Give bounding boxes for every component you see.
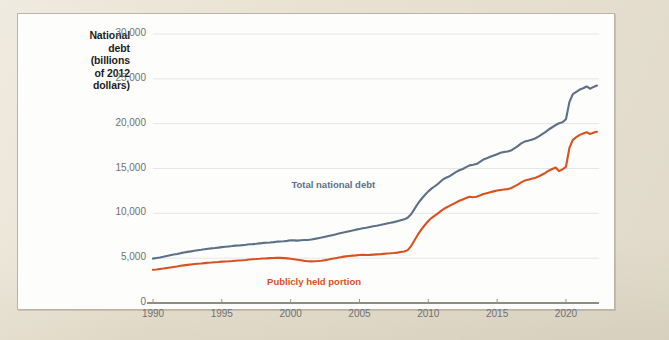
y-tick-label-5000: 5,000 [78, 251, 146, 262]
chart-card: National debt (billions of 2012 dollars)… [17, 13, 615, 310]
y-tick-label-15000: 15,000 [78, 162, 146, 173]
gridlines [153, 34, 599, 258]
y-tick-label-25000: 25,000 [78, 72, 146, 83]
series-label-publicly-held-portion: Publicly held portion [267, 276, 361, 287]
y-axis-title-line-3: (billions [58, 54, 130, 67]
plot-area: National debt (billions of 2012 dollars)… [18, 14, 614, 309]
x-tick-label-2005: 2005 [329, 308, 389, 319]
y-tick-label-10000: 10,000 [78, 206, 146, 217]
x-tick-label-2010: 2010 [398, 308, 458, 319]
y-tick-label-20000: 20,000 [78, 117, 146, 128]
y-tick-label-30000: 30,000 [78, 27, 146, 38]
x-tick-label-2015: 2015 [467, 308, 527, 319]
series-line-1 [153, 132, 597, 270]
series-line-0 [153, 86, 597, 259]
x-tick-label-2020: 2020 [536, 308, 596, 319]
y-axis-title-line-2: debt [58, 42, 130, 55]
figure-root: National debt (billions of 2012 dollars)… [0, 0, 669, 340]
y-tick-label-0: 0 [78, 296, 146, 307]
x-tick-label-1995: 1995 [192, 308, 252, 319]
series-label-total-national-debt: Total national debt [291, 179, 375, 190]
x-tick-label-2000: 2000 [261, 308, 321, 319]
x-tick-label-1990: 1990 [123, 308, 183, 319]
series-lines [153, 86, 597, 270]
